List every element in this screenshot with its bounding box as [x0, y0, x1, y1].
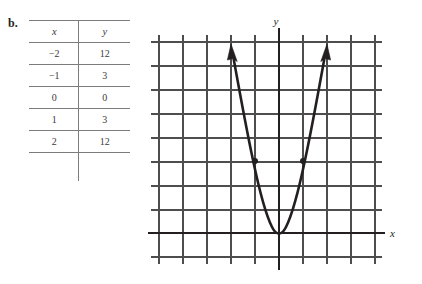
table-head: x y — [29, 21, 130, 43]
table-cell-x: 0 — [29, 87, 80, 109]
marked-point — [252, 158, 258, 164]
table-row: −1 3 — [29, 65, 130, 87]
table-cell-y: 0 — [80, 87, 131, 109]
table-header-row: x y — [29, 21, 130, 43]
table-row: 1 3 — [29, 109, 130, 131]
table-cell-x: −2 — [29, 43, 80, 65]
table-body: −2 12 −1 3 0 0 1 3 2 12 — [29, 43, 130, 153]
x-axis-label: x — [389, 227, 395, 239]
y-axis-label: y — [273, 15, 279, 27]
table-row: 0 0 — [29, 87, 130, 109]
arrowhead-right-branch — [321, 44, 331, 62]
table-cell-x: 2 — [29, 131, 80, 153]
value-table-wrapper: x y −2 12 −1 3 0 0 1 3 — [29, 20, 130, 181]
table-cell-x: 1 — [29, 109, 80, 131]
table-header-x: x — [29, 21, 80, 43]
coordinate-graph: y x — [140, 8, 422, 284]
grid-vertical-lines — [159, 35, 375, 264]
value-table: x y −2 12 −1 3 0 0 1 3 — [29, 20, 130, 153]
table-cell-y: 3 — [80, 65, 131, 87]
table-cell-y: 12 — [80, 131, 131, 153]
marked-point — [300, 158, 306, 164]
grid-horizontal-lines — [151, 42, 382, 257]
part-label: b. — [8, 16, 18, 30]
table-cell-y: 3 — [80, 109, 131, 131]
table-header-y: y — [80, 21, 131, 43]
table-cell-y: 12 — [80, 43, 131, 65]
figure-container: b. x y −2 12 −1 3 0 0 — [0, 0, 422, 284]
table-row: −2 12 — [29, 43, 130, 65]
arrowhead-left-branch — [227, 44, 237, 62]
table-cell-x: −1 — [29, 65, 80, 87]
table-column-divider — [78, 20, 79, 181]
table-row: 2 12 — [29, 131, 130, 153]
